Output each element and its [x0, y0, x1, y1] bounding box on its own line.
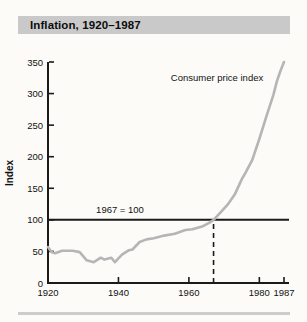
bottom-divider: [18, 312, 290, 315]
y-tick-label: 50: [32, 246, 43, 257]
y-axis-title: Index: [4, 160, 15, 187]
series-label: Consumer price index: [171, 72, 264, 83]
axis-lines: [48, 62, 289, 283]
figure-card: Inflation, 1920–1987 0501001502002503003…: [0, 0, 307, 322]
y-tick-label: 350: [27, 57, 43, 68]
y-tick-label: 300: [27, 88, 43, 99]
cpi-line-chart: 0501001502002503003501920194019601980198…: [0, 0, 307, 322]
cpi-line: [48, 62, 284, 262]
reference-line-label: 1967 = 100: [96, 204, 144, 215]
y-tick-label: 250: [27, 120, 43, 131]
y-tick-label: 200: [27, 151, 43, 162]
x-tick-label: 1960: [178, 287, 199, 298]
x-tick-label: 1940: [108, 287, 129, 298]
y-tick-label: 100: [27, 214, 43, 225]
x-tick-label: 1987: [273, 287, 294, 298]
x-tick-label: 1980: [249, 287, 270, 298]
y-tick-label: 150: [27, 183, 43, 194]
x-tick-label: 1920: [37, 287, 58, 298]
